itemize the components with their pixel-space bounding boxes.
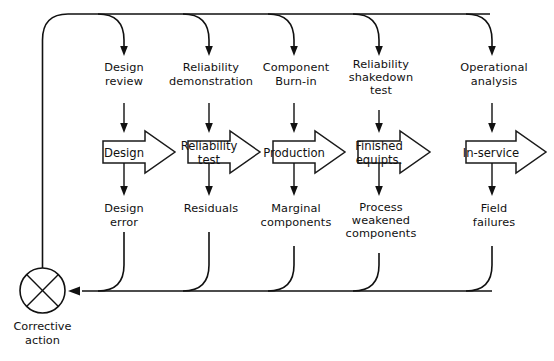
block-label-finished-equipts: Finished [355,139,403,153]
output-label-process-weakened-2: weakened [352,214,410,227]
arrowhead-marginal-components [290,186,298,196]
output-label-design-error-2: error [110,216,138,229]
top-branch-design [98,14,124,50]
input-label-in-service: Operational [460,61,527,74]
top-branch-arrowheads [120,46,496,56]
block-label-finished-equipts-2: equipts. [356,153,403,167]
block-label-design: Design [104,146,144,160]
arrowhead-production-block-in [290,123,298,133]
block-label-in-service: In-service [463,146,519,160]
arrowhead-field-failures [488,186,496,196]
arrowhead-in-service-block-in [488,123,496,133]
flow-diagram: Design review Reliability demonstration … [0,0,554,361]
arrowhead-design-error [120,186,128,196]
output-label-residuals: Residuals [184,202,239,215]
bottom-branch-marginal-components [268,246,294,291]
input-label-design-2: review [105,75,143,88]
bottom-branch-design-error [98,232,124,291]
summing-junction[interactable] [20,268,65,313]
bottom-branch-curves [98,232,379,291]
corrective-action-label-line2: action [25,334,60,347]
bottom-bus-group [68,246,492,295]
input-label-design: Design [104,61,144,74]
arrowhead-reliability-test-block-in [205,123,213,133]
bottom-branch-field-failures [466,246,492,291]
arrowhead-in-service-input [488,46,496,56]
block-label-reliability-test-2: test [198,153,221,167]
corrective-action-label-line1: Corrective [13,320,71,333]
block-label-production: Production [263,146,325,160]
diagram-canvas: Design review Reliability demonstration … [0,0,554,361]
arrowhead-corrective-action-in [68,287,80,296]
input-label-finished-equipts: Reliability [353,58,410,71]
bottom-branch-process-weakened-components [353,253,379,291]
arrowhead-process-weakened-components [375,186,383,196]
top-branch-curves [98,14,379,50]
arrowhead-finished-equipts-block-in [375,123,383,133]
input-label-production-2: Burn-in [275,75,317,88]
output-label-field-failures-2: failures [473,216,515,229]
output-label-design-error: Design [104,202,144,215]
bottom-branch-residuals [183,232,209,291]
output-label-group: Design error Residuals Marginal componen… [104,201,515,240]
arrowhead-design-block-in [120,123,128,133]
top-bus-right-corner [466,14,492,50]
input-label-finished-equipts-3: test [370,84,393,97]
input-label-group: Design review Reliability demonstration … [104,58,528,97]
input-label-reliability-test-2: demonstration [169,75,253,88]
output-label-process-weakened-3: components [346,227,417,240]
block-label-reliability-test: Reliability [181,139,238,153]
top-branch-finished-equipts [353,14,379,50]
arrowhead-residuals [205,186,213,196]
top-branch-reliability-test [183,14,209,50]
arrowhead-reliability-test-input [205,46,213,56]
arrowhead-design-input [120,46,128,56]
output-label-process-weakened: Process [359,201,403,214]
input-label-finished-equipts-2: shakedown [349,71,413,84]
output-label-field-failures: Field [481,202,508,215]
top-branch-production [268,14,294,50]
arrowhead-finished-equipts-input [375,46,383,56]
output-label-marginal-components: Marginal [271,202,320,215]
input-label-production: Component [263,61,330,74]
input-label-reliability-test: Reliability [183,61,240,74]
summing-junction-caption: Corrective action [13,320,71,347]
input-label-in-service-2: analysis [471,75,518,88]
arrowhead-production-input [290,46,298,56]
output-label-marginal-components-2: components [261,216,332,229]
